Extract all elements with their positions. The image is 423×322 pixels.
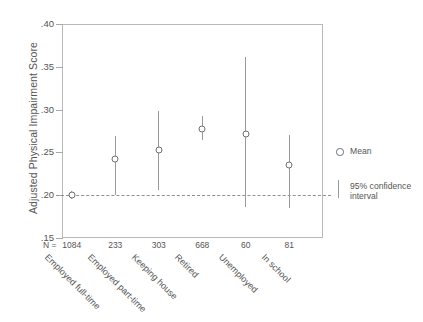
legend-entry-mean: Mean [336,146,422,157]
n-value: 60 [241,240,250,250]
legend-label-ci-line1: 95% confidence [350,181,411,191]
category-label: Retired [173,252,201,280]
mean-marker-icon [336,148,344,156]
mean-marker [242,131,249,138]
mean-marker [112,156,119,163]
mean-marker [155,146,162,153]
y-axis-tick-label: .25 [28,146,54,157]
confidence-interval-bar [115,136,116,195]
y-axis-tick [56,152,63,153]
legend-label-ci-line2: interval [350,191,378,201]
mean-marker [286,162,293,169]
plot-area [62,24,323,238]
legend-entry-ci: 95% confidence interval [336,181,422,202]
confidence-interval-bar [289,135,290,208]
n-value: 81 [285,240,294,250]
legend-label-ci: 95% confidence interval [350,181,422,202]
n-row-label: N = [43,240,56,250]
y-axis-tick-label: .30 [28,104,54,115]
y-axis-title: Adjusted Physical Impairment Score [27,13,39,243]
mean-marker [199,126,206,133]
n-value: 668 [195,240,209,250]
y-axis-tick [56,238,63,239]
chart-container: Adjusted Physical Impairment Score .40.3… [0,0,423,322]
y-axis-tick [56,24,63,25]
mean-marker [68,192,75,199]
category-label: In school [260,252,293,285]
confidence-interval-bar-icon [338,180,339,198]
y-axis-tick [56,110,63,111]
category-label: Keeping house [130,252,180,302]
category-label: Unemployed [217,252,260,295]
y-axis-tick-label: .20 [28,189,54,200]
legend-label-mean: Mean [350,146,422,157]
y-axis-tick [56,67,63,68]
legend: Mean 95% confidence interval [336,146,422,202]
y-axis-tick-label: .40 [28,18,54,29]
n-value: 1084 [62,240,81,250]
n-value: 233 [108,240,122,250]
y-axis-tick-label: .35 [28,61,54,72]
n-value: 303 [152,240,166,250]
